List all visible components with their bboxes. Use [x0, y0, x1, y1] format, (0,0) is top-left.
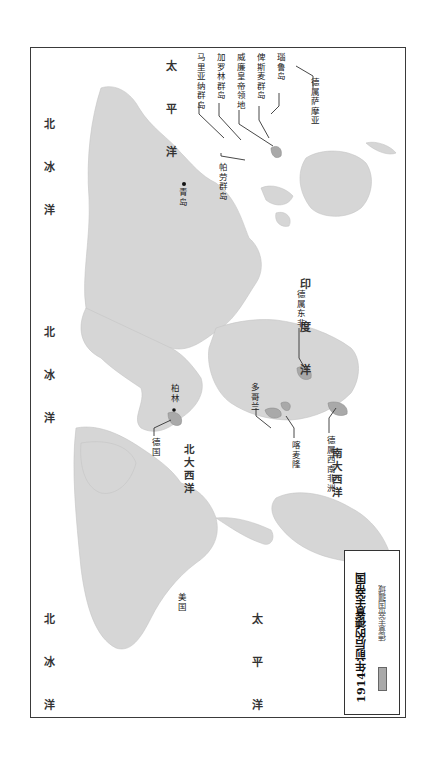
map-frame: 北 冰 洋 太 平 洋 北 冰 洋 印 度 洋 北大西洋 南大西洋 北 冰 洋 …	[30, 47, 406, 718]
label-east-africa: 德属东非	[295, 290, 304, 328]
legend-label-german-territory: 德意志帝国疆域	[377, 585, 388, 641]
leader-kaiser-wilhelmsland	[239, 110, 273, 146]
leader-nauru	[271, 93, 279, 114]
label-north-atlantic: 北大西洋	[183, 444, 194, 496]
leader-palau	[221, 153, 245, 160]
central-america-landmass	[216, 518, 273, 545]
label-germany: 德国	[150, 438, 159, 457]
label-arctic-middle: 北 冰 洋	[43, 326, 54, 437]
new-guinea-territory	[271, 146, 281, 157]
legend-swatch-german-territory	[378, 667, 387, 691]
australia-landmass	[300, 151, 371, 216]
southeast-asia-islands	[261, 186, 293, 226]
label-bismarck: 俾斯麦群岛	[255, 53, 264, 101]
label-berlin: 柏林	[169, 384, 178, 403]
qingdao-marker	[182, 182, 186, 186]
label-arctic-top: 北 冰 洋	[43, 118, 54, 229]
southwest-africa-territory	[328, 402, 347, 415]
label-usa: 美国	[176, 593, 185, 612]
label-pacific-bottom: 太 平 洋	[251, 613, 262, 718]
leader-bismarck	[259, 106, 269, 138]
label-caroline: 加罗林群岛	[215, 53, 224, 101]
label-arctic-bottom: 北 冰 洋	[43, 613, 54, 718]
berlin-marker	[172, 408, 176, 412]
label-pacific-top: 太 平 洋	[165, 60, 176, 171]
label-mariana: 马里亚纳群岛	[195, 53, 204, 110]
label-togo: 多哥兰	[249, 383, 258, 412]
label-southwest-africa: 德属西南非洲	[325, 436, 334, 493]
label-kaiser-wilhelmsland: 威廉皇帝领地	[235, 53, 244, 110]
map-title: 1914年前后的德意志帝国	[354, 573, 370, 703]
map-legend: 1914年前后的德意志帝国 德意志帝国疆域	[344, 550, 400, 715]
new-zealand-landmass	[366, 142, 396, 154]
label-cameroon: 喀麦隆	[290, 441, 299, 470]
label-nauru: 瑙鲁岛	[275, 53, 284, 82]
label-samoa: 德属萨摩亚	[309, 78, 318, 126]
label-qingdao: 青岛	[177, 188, 186, 207]
label-palau: 帕劳群岛	[217, 163, 226, 201]
